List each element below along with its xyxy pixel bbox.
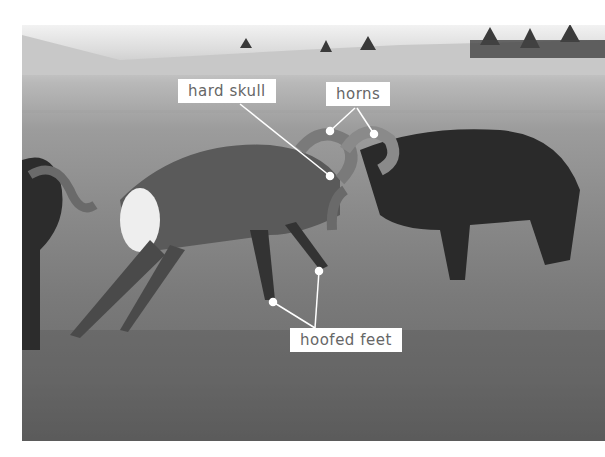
label-leader-lines: [22, 25, 605, 441]
label-horns: horns: [326, 82, 390, 106]
ram-photo: [22, 25, 605, 441]
label-hard-skull: hard skull: [178, 79, 276, 103]
label-hoofed-feet: hoofed feet: [290, 328, 402, 352]
